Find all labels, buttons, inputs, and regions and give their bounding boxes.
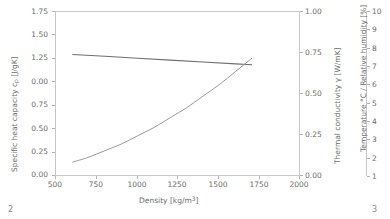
xtick-1250: 1250 bbox=[157, 181, 197, 189]
ytick-right-0.00: 0.00 bbox=[305, 172, 339, 180]
series-line-thermal-conductivity bbox=[72, 58, 252, 162]
ytick-left-1.75: 1.75 bbox=[14, 8, 48, 16]
xtick-mark bbox=[218, 176, 219, 179]
x-axis-title-end: ] bbox=[196, 196, 199, 205]
xtick-1750: 1750 bbox=[239, 181, 279, 189]
xtick-mark bbox=[137, 176, 138, 179]
xtick-1000: 1000 bbox=[117, 181, 157, 189]
xtick-500: 500 bbox=[35, 181, 75, 189]
ytick-mark-right bbox=[300, 93, 303, 94]
xtick-mark bbox=[96, 176, 97, 179]
ytick-far-6: 6 bbox=[372, 81, 390, 89]
ytick-mark-right bbox=[300, 52, 303, 53]
xtick-750: 750 bbox=[76, 181, 116, 189]
ytick-far-2: 2 bbox=[372, 155, 390, 163]
y-axis-left-title-end: [J/gK] bbox=[10, 56, 19, 79]
ytick-left-0.50: 0.50 bbox=[14, 125, 48, 133]
y-axis-right-title: Thermal conductivity γ [W/mK] bbox=[334, 47, 342, 164]
ytick-far-5: 5 bbox=[372, 100, 390, 108]
chart-figure: 1.75 1.50 1.25 0.00 0.75 0.50 0.25 0.00 … bbox=[0, 0, 390, 219]
series-line-specific-heat-capacity bbox=[72, 54, 252, 64]
y-axis-left-title-base: Specific heat capacity c bbox=[10, 83, 19, 172]
xtick-mark bbox=[299, 176, 300, 179]
ytick-far-7: 7 bbox=[372, 63, 390, 71]
ytick-right-1.00: 1.00 bbox=[305, 8, 339, 16]
xtick-mark bbox=[259, 176, 260, 179]
xtick-mark bbox=[55, 176, 56, 179]
xtick-1500: 1500 bbox=[198, 181, 238, 189]
ytick-mark-far-right bbox=[367, 176, 370, 177]
ytick-far-1: 1 bbox=[372, 173, 390, 181]
y-axis-left-title: Specific heat capacity cp [J/gK] bbox=[11, 56, 19, 172]
y-axis-far-right-title: Temperature °C / Relative humidity [%] bbox=[360, 5, 368, 152]
y-axis-left-title-subscript: p bbox=[12, 79, 19, 83]
ytick-left-0.00: 0.00 bbox=[14, 171, 48, 179]
ytick-mark-far-right bbox=[367, 158, 370, 159]
ytick-mark-right bbox=[300, 134, 303, 135]
page-number-left: 2 bbox=[8, 206, 13, 214]
plot-area bbox=[55, 11, 300, 176]
ytick-left-1.50: 1.50 bbox=[14, 31, 48, 39]
x-axis-title: Density [kg/m3] bbox=[139, 196, 199, 205]
ytick-far-4: 4 bbox=[372, 118, 390, 126]
ytick-far-9: 9 bbox=[372, 26, 390, 34]
ytick-left-1.25: 1.25 bbox=[14, 54, 48, 62]
ytick-far-10: 10 bbox=[372, 8, 390, 16]
ytick-mark-right bbox=[300, 175, 303, 176]
page-number-right: 3 bbox=[372, 206, 377, 214]
ytick-far-8: 8 bbox=[372, 45, 390, 53]
ytick-left-0.75: 0.75 bbox=[14, 101, 48, 109]
ytick-left-1.00: 0.00 bbox=[14, 78, 48, 86]
ytick-left-0.25: 0.25 bbox=[14, 148, 48, 156]
xtick-mark bbox=[177, 176, 178, 179]
ytick-mark-right bbox=[300, 11, 303, 12]
plot-canvas bbox=[56, 12, 301, 177]
xtick-2000: 2000 bbox=[279, 181, 319, 189]
ytick-far-3: 3 bbox=[372, 136, 390, 144]
x-axis-title-base: Density [kg/m bbox=[139, 196, 192, 205]
